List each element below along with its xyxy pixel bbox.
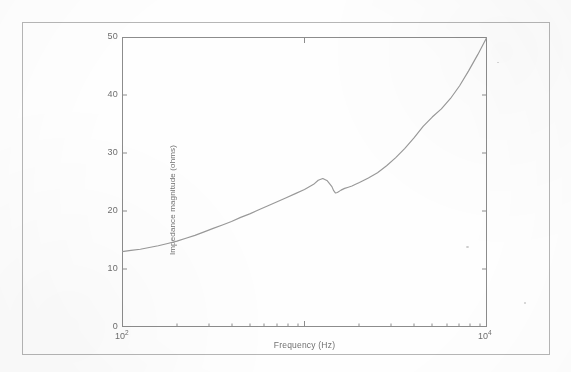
y-axis-title-container: Impedance magnitude (ohms) [88, 60, 102, 260]
scan-speck [466, 246, 469, 248]
axes-box [123, 38, 487, 327]
y-axis-ticks [122, 38, 487, 327]
figure-content: 50 40 30 20 10 0 Impedance magnitude (oh… [0, 0, 571, 372]
scan-speck [497, 62, 499, 63]
scan-speck [524, 302, 526, 304]
y-tick-label-50: 50 [92, 32, 118, 41]
y-tick-label-10: 10 [92, 264, 118, 273]
x-axis-title: Frequency (Hz) [122, 340, 487, 350]
y-tick-label-0: 0 [92, 322, 118, 331]
impedance-magnitude-plot [122, 37, 487, 327]
plot-area [122, 37, 487, 327]
impedance-curve [122, 37, 487, 252]
x-tick-exponent-1e2: 2 [125, 329, 129, 336]
x-axis-ticks [123, 37, 487, 327]
x-tick-exponent-1e4: 4 [488, 329, 492, 336]
